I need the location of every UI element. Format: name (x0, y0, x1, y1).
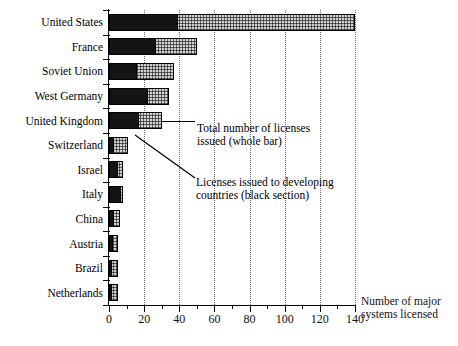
x-tick-minor-90 (267, 305, 268, 309)
bar-black-israel (109, 161, 118, 178)
x-tick-minor-50 (197, 305, 198, 309)
x-tick-major-20 (144, 305, 145, 312)
x-tick-major-60 (214, 305, 215, 312)
category-label-brazil: Brazil (75, 262, 103, 274)
x-tick-major-0 (109, 305, 110, 312)
x-tick-major-40 (179, 305, 180, 312)
x-tick-minor-30 (162, 305, 163, 309)
bar-black-west-germany (109, 88, 148, 105)
x-axis-caption-line2: systems licensed (361, 308, 441, 321)
category-label-austria: Austria (69, 238, 103, 250)
bar-black-united-kingdom (109, 112, 139, 129)
bar-row (109, 14, 355, 31)
bar-black-brazil (109, 260, 112, 277)
bar-black-france (109, 38, 156, 55)
category-label-italy: Italy (82, 188, 103, 200)
bar-row (109, 38, 355, 55)
black-annotation-line2: countries (black section) (196, 189, 309, 202)
x-axis-caption-line1: Number of major (361, 295, 441, 308)
x-tick-label-20: 20 (138, 312, 150, 327)
gridline-140 (355, 10, 356, 305)
total-annotation-leader-line (162, 121, 195, 122)
x-tick-major-120 (320, 305, 321, 312)
category-label-west-germany: West Germany (35, 90, 103, 102)
category-label-switzerland: Switzerland (48, 139, 103, 151)
x-tick-label-80: 80 (244, 312, 256, 327)
x-tick-major-80 (250, 305, 251, 312)
black-annotation-leader-line (133, 133, 203, 183)
bar-row (109, 88, 355, 105)
x-tick-minor-70 (232, 305, 233, 309)
total-annotation-line1: Total number of licenses (197, 122, 310, 135)
bar-black-austria (109, 235, 113, 252)
category-label-china: China (76, 213, 103, 225)
bar-black-united-states (109, 14, 178, 31)
x-tick-minor-130 (337, 305, 338, 309)
x-tick-label-60: 60 (208, 312, 220, 327)
x-tick-label-100: 100 (276, 312, 294, 327)
bar-black-china (109, 210, 114, 227)
bar-black-netherlands (109, 284, 112, 301)
bar-row (109, 284, 355, 301)
bar-black-soviet-union (109, 63, 137, 80)
x-tick-label-120: 120 (311, 312, 329, 327)
category-label-united-states: United States (41, 16, 103, 28)
x-tick-minor-10 (127, 305, 128, 309)
bar-row (109, 235, 355, 252)
x-tick-minor-110 (302, 305, 303, 309)
x-tick-major-140 (355, 305, 356, 312)
bar-chart: United StatesFranceSoviet UnionWest Germ… (0, 0, 458, 346)
bar-row (109, 260, 355, 277)
x-axis-caption: Number of major systems licensed (361, 295, 441, 321)
category-label-france: France (72, 41, 103, 53)
category-label-soviet-union: Soviet Union (42, 65, 103, 77)
category-label-israel: Israel (77, 164, 103, 176)
black-annotation-line1: Licenses issued to developing (196, 176, 334, 189)
x-tick-label-40: 40 (173, 312, 185, 327)
bar-row (109, 210, 355, 227)
bar-row (109, 63, 355, 80)
x-tick-label-0: 0 (106, 312, 112, 327)
x-tick-major-100 (285, 305, 286, 312)
bar-black-italy (109, 186, 121, 203)
total-annotation-line2: issued (whole bar) (197, 135, 282, 148)
bar-black-switzerland (109, 137, 114, 154)
category-label-netherlands: Netherlands (47, 287, 103, 299)
category-label-united-kingdom: United Kingdom (25, 115, 103, 127)
